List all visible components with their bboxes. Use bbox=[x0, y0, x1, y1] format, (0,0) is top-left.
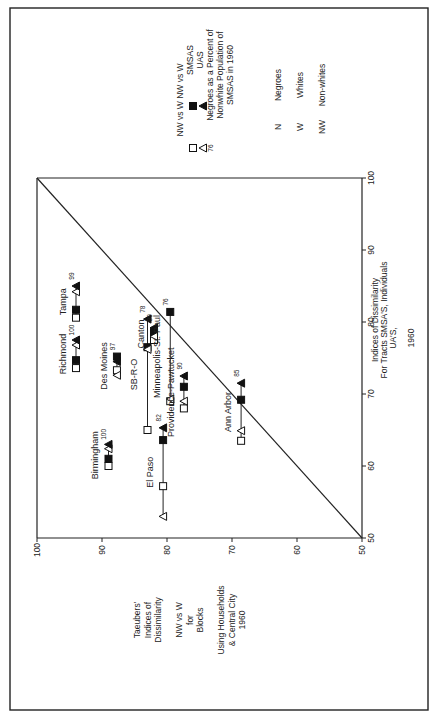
n-smsa-marker bbox=[167, 308, 174, 315]
city-label: El Paso bbox=[145, 457, 155, 488]
city-label: Providence-Pawtucket bbox=[166, 347, 176, 437]
legend-open-square-icon bbox=[190, 145, 197, 152]
legend-abbr: NW bbox=[317, 120, 327, 134]
city-label: Richmond bbox=[58, 334, 68, 375]
y-tick-label: 90 bbox=[366, 245, 376, 255]
y-tick-label: 100 bbox=[366, 171, 376, 185]
nw-smsa-marker bbox=[73, 365, 80, 372]
x-axis-label-line: Using Households bbox=[216, 586, 226, 655]
x-axis-label-line: NW vs W bbox=[174, 602, 184, 637]
y-axis-label-line: For Tracts SMSA'S, Individuals bbox=[379, 262, 389, 379]
x-axis-label-line: 1960 bbox=[237, 610, 247, 629]
city-label: Birmingham bbox=[91, 431, 101, 479]
x-axis-label-line: for bbox=[185, 615, 195, 625]
n-smsa-marker bbox=[180, 383, 187, 390]
city-label: Tampa bbox=[58, 288, 68, 315]
x-axis-label-line: Indices of bbox=[143, 601, 153, 638]
equality-diagonal bbox=[37, 178, 362, 538]
pct-negro-label: 99 bbox=[68, 272, 75, 280]
city-label: Des Moines bbox=[99, 342, 109, 390]
x-axis-label-line: Taeubers' bbox=[132, 601, 142, 638]
x-tick-label: 70 bbox=[227, 545, 237, 555]
n-smsa-marker bbox=[105, 455, 112, 462]
legend-abbr-meaning: Negroes bbox=[273, 69, 283, 101]
legend-filled-square-icon bbox=[190, 103, 197, 110]
legend-note-line: SMSAS in 1960 bbox=[225, 45, 235, 105]
legend-note-line: Negroes as a Percent of bbox=[205, 29, 215, 121]
city-label: SB-R-O bbox=[130, 359, 140, 391]
city-label: Ann Arbor bbox=[223, 392, 233, 432]
x-axis-label-line: & Central City bbox=[227, 593, 237, 646]
x-tick-label: 50 bbox=[357, 545, 367, 555]
city-label: Minneapolis-St.-Paul bbox=[152, 315, 162, 398]
legend-uas-label: UAS bbox=[195, 51, 205, 69]
n-smsa-marker bbox=[73, 306, 80, 313]
legend-smsas-label: SMSAS bbox=[185, 45, 195, 75]
nw-smsa-marker bbox=[238, 437, 245, 444]
x-tick-label: 90 bbox=[97, 545, 107, 555]
x-tick-label: 60 bbox=[292, 545, 302, 555]
city-label: Canton bbox=[136, 319, 146, 348]
legend-header: NW vs W NW vs W bbox=[175, 63, 185, 136]
legend-abbr-meaning: Non-whites bbox=[317, 64, 327, 107]
pct-negro-label: 76 bbox=[162, 298, 169, 306]
x-tick-label: 100 bbox=[32, 543, 42, 557]
n-smsa-marker bbox=[238, 396, 245, 403]
n-smsa-marker bbox=[73, 357, 80, 364]
y-tick-label: 60 bbox=[366, 461, 376, 471]
y-tick-label: 70 bbox=[366, 389, 376, 399]
pct-negro-label: 90 bbox=[176, 362, 183, 370]
legend-abbr: W bbox=[295, 123, 305, 131]
dissimilarity-chart: 10090807060505060708090100Taeubers'Indic… bbox=[0, 0, 431, 718]
legend-note-line: Nonwhite Population of bbox=[215, 31, 225, 119]
x-axis-label-line: Dissimilarity bbox=[153, 597, 163, 643]
pct-negro-label: 97 bbox=[109, 343, 116, 351]
y-tick-label: 50 bbox=[366, 533, 376, 543]
nw-smsa-marker bbox=[105, 463, 112, 470]
x-tick-label: 80 bbox=[162, 545, 172, 555]
nw-smsa-marker bbox=[73, 314, 80, 321]
pct-negro-label: 100 bbox=[68, 324, 75, 335]
y-axis-label-line: 1960 bbox=[406, 328, 416, 347]
pct-negro-label: 85 bbox=[233, 369, 240, 377]
legend-open-triangle-icon bbox=[199, 144, 207, 152]
pct-negro-label: 78 bbox=[140, 305, 147, 313]
legend-note-marker: 76 bbox=[207, 144, 214, 152]
nw-smsa-marker bbox=[144, 427, 151, 434]
legend-abbr-meaning: Whites bbox=[295, 72, 305, 98]
pct-negro-label: 82 bbox=[155, 414, 162, 422]
pct-negro-label: 100 bbox=[101, 429, 108, 440]
x-axis-label-line: Blocks bbox=[195, 607, 205, 632]
nw-smsa-marker bbox=[160, 483, 167, 490]
nw-smsa-marker bbox=[180, 405, 187, 412]
legend-abbr: N bbox=[273, 124, 283, 130]
plot-layer: 10090807060505060708090100Taeubers'Indic… bbox=[32, 29, 416, 655]
y-axis-label-line: UA'S, bbox=[388, 327, 398, 348]
